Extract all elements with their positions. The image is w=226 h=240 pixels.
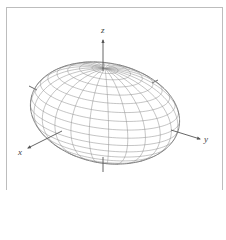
mesh-segment (36, 122, 37, 123)
mesh-segment (172, 111, 173, 112)
mesh-segment (46, 104, 48, 105)
mesh-segment (59, 119, 62, 120)
mesh-segment (67, 148, 70, 149)
mesh-segment (80, 71, 84, 72)
mesh-segment (164, 105, 165, 106)
mesh-segment (148, 102, 150, 105)
mesh-segment (82, 141, 86, 142)
mesh-segment (87, 69, 91, 70)
mesh-segment (154, 89, 157, 91)
mesh-segment (76, 79, 77, 80)
mesh-segment (54, 87, 55, 88)
mesh-segment (96, 87, 97, 89)
mesh-segment (39, 85, 41, 87)
mesh-segment (53, 116, 56, 117)
mesh-segment (37, 96, 38, 97)
mesh-segment (137, 90, 139, 92)
mesh-segment (94, 119, 98, 120)
mesh-segment (99, 65, 101, 66)
mesh-segment (103, 70, 104, 71)
mesh-segment (84, 87, 85, 89)
mesh-segment (74, 96, 77, 97)
mesh-segment (178, 116, 179, 117)
mesh-segment (34, 104, 35, 105)
mesh-segment (58, 73, 61, 74)
mesh-segment (71, 70, 75, 71)
mesh-segment (36, 101, 37, 103)
mesh-segment (128, 73, 132, 74)
mesh-segment (59, 79, 60, 80)
mesh-segment (46, 93, 47, 94)
mesh-segment (52, 124, 55, 125)
mesh-segment (59, 100, 61, 101)
mesh-segment (167, 114, 169, 115)
mesh-segment (157, 118, 159, 119)
mesh-segment (155, 149, 156, 151)
mesh-segment (158, 120, 159, 123)
mesh-segment (157, 91, 160, 93)
mesh-segment (167, 132, 169, 133)
mesh-segment (87, 117, 91, 118)
mesh-segment (79, 96, 80, 98)
mesh-segment (120, 70, 124, 71)
mesh-segment (70, 113, 73, 114)
mesh-segment (120, 71, 124, 72)
mesh-segment (158, 135, 161, 136)
mesh-segment (122, 75, 125, 77)
mesh-segment (61, 84, 63, 86)
mesh-segment (130, 72, 133, 73)
mesh-segment (32, 110, 33, 111)
mesh-segment (45, 113, 47, 114)
mesh-segment (143, 120, 144, 123)
mesh-segment (67, 103, 70, 104)
mesh-segment (138, 158, 139, 159)
mesh-segment (59, 69, 60, 70)
mesh-segment (31, 109, 32, 110)
mesh-segment (38, 117, 40, 118)
mesh-segment (170, 121, 171, 123)
mesh-segment (170, 122, 172, 123)
mesh-segment (169, 119, 170, 121)
mesh-segment (94, 160, 95, 161)
mesh-segment (98, 63, 99, 64)
mesh-segment (129, 91, 131, 93)
mesh-segment (74, 108, 75, 111)
mesh-segment (174, 109, 175, 110)
axes-back (29, 80, 158, 90)
mesh-segment (89, 71, 92, 72)
mesh-segment (62, 135, 65, 136)
mesh-segment (168, 102, 170, 104)
mesh-segment (124, 110, 125, 113)
mesh-segment (140, 112, 141, 115)
mesh-segment (74, 132, 78, 133)
mesh-segment (168, 116, 169, 119)
mesh-segment (127, 69, 130, 70)
mesh-segment (134, 99, 135, 102)
mesh-segment (175, 128, 176, 129)
mesh-segment (85, 134, 89, 135)
mesh-segment (95, 69, 98, 70)
mesh-segment (45, 92, 46, 93)
mesh-segment (157, 108, 159, 109)
mesh-segment (100, 71, 102, 72)
mesh-segment (141, 81, 144, 83)
mesh-segment (61, 110, 64, 111)
mesh-segment (151, 107, 153, 110)
mesh-segment (81, 92, 82, 94)
mesh-segment (70, 149, 73, 150)
mesh-segment (170, 112, 171, 113)
mesh-segment (49, 82, 50, 83)
mesh-segment (165, 133, 167, 134)
mesh-segment (91, 64, 94, 65)
mesh-segment (169, 140, 170, 142)
mesh-segment (76, 82, 78, 84)
mesh-segment (35, 105, 36, 106)
mesh-segment (36, 99, 37, 101)
mesh-segment (139, 109, 140, 112)
mesh-segment (110, 75, 111, 77)
mesh-segment (134, 161, 135, 162)
mesh-segment (44, 90, 45, 91)
mesh-segment (90, 73, 93, 74)
mesh-segment (41, 130, 43, 131)
mesh-segment (144, 88, 147, 90)
